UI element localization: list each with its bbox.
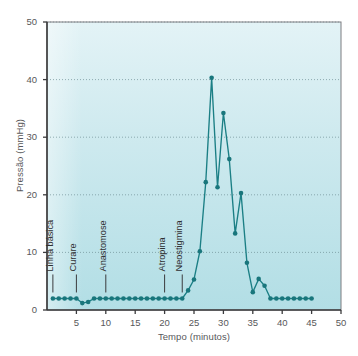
data-point [174, 296, 179, 301]
data-point [286, 296, 291, 301]
data-point [215, 185, 220, 190]
annotation-label: Atropina [157, 236, 167, 271]
data-point [151, 296, 156, 301]
data-point [98, 296, 103, 301]
data-point [268, 296, 273, 301]
data-point [239, 191, 244, 196]
data-point [62, 296, 67, 301]
x-tick-label: 45 [300, 317, 324, 328]
chart-figure: Pressão (mmHg) Tempo (minutos) 010203040… [0, 0, 358, 356]
y-tick-label: 30 [15, 131, 37, 142]
plot-canvas: Linha básicaCurareAnastomoseAtropinaNeos… [0, 0, 358, 356]
data-point [251, 290, 256, 295]
data-point [298, 296, 303, 301]
x-tick-label: 15 [123, 317, 147, 328]
x-tick-label: 50 [329, 317, 353, 328]
x-tick-label: 35 [241, 317, 265, 328]
data-point [145, 296, 150, 301]
data-point [245, 260, 250, 265]
data-point [192, 277, 197, 282]
data-point [274, 296, 279, 301]
x-tick-label: 40 [270, 317, 294, 328]
data-point [303, 296, 308, 301]
data-point [168, 296, 173, 301]
data-point [86, 300, 91, 305]
data-point [186, 288, 191, 293]
data-point [209, 76, 214, 81]
figure-caption [20, 346, 340, 354]
data-point [233, 231, 238, 236]
data-point [56, 296, 61, 301]
annotation-label: Curare [68, 243, 78, 271]
y-tick-label: 0 [15, 304, 37, 315]
annotation-label: Linha básica [45, 219, 55, 271]
data-point [292, 296, 297, 301]
data-point [156, 296, 161, 301]
data-point [180, 296, 185, 301]
data-point [104, 296, 109, 301]
data-point [74, 296, 79, 301]
data-point [227, 157, 232, 162]
x-tick-label: 30 [211, 317, 235, 328]
data-point [121, 296, 126, 301]
data-point [139, 296, 144, 301]
x-tick-label: 10 [94, 317, 118, 328]
x-tick-label: 20 [153, 317, 177, 328]
plot-background-sheen [47, 22, 341, 310]
y-tick-label: 10 [15, 246, 37, 257]
data-point [262, 284, 267, 289]
y-tick-label: 20 [15, 189, 37, 200]
data-point [309, 296, 314, 301]
data-point [256, 277, 261, 282]
x-axis-title: Tempo (minutos) [47, 331, 341, 342]
annotation-label: Anastomose [98, 220, 108, 271]
data-point [92, 296, 97, 301]
data-point [133, 296, 138, 301]
data-point [198, 249, 203, 254]
x-tick-label: 5 [64, 317, 88, 328]
y-tick-label: 50 [15, 16, 37, 27]
data-point [109, 296, 114, 301]
annotation-label: Neostigmina [174, 220, 184, 272]
data-point [51, 296, 56, 301]
y-tick-label: 40 [15, 74, 37, 85]
x-tick-label: 25 [182, 317, 206, 328]
data-point [203, 180, 208, 185]
data-point [162, 296, 167, 301]
data-point [221, 111, 226, 116]
data-point [68, 296, 73, 301]
data-point [80, 301, 85, 306]
data-point [280, 296, 285, 301]
data-point [127, 296, 132, 301]
data-point [115, 296, 120, 301]
